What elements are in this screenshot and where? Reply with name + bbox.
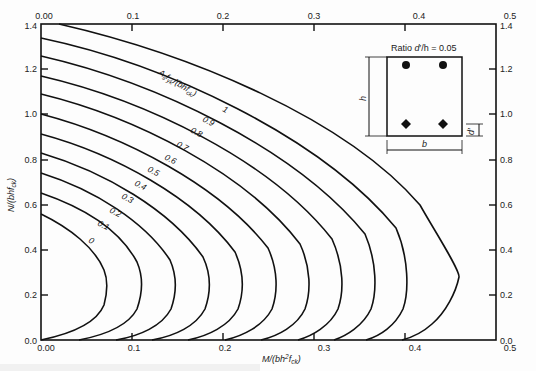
svg-text:1: 1	[221, 104, 230, 115]
svg-text:0: 0	[87, 235, 96, 246]
inset-title: Ratio d′/h = 0.05	[391, 43, 457, 53]
x-tick-label-top: 0.1	[127, 11, 140, 21]
y-axis-title: N/(bhfck)	[6, 178, 17, 212]
top-rebar	[439, 61, 447, 69]
y-tick-label-right: 0.0	[500, 336, 513, 346]
section-inset: Ratio d′/h = 0.05 h b d′	[358, 43, 483, 154]
inset-b-label: b	[422, 139, 427, 149]
y-tick-label: 0.2	[24, 290, 37, 300]
x-tick-label-top: 0.00	[35, 11, 53, 21]
plot-frame	[41, 24, 496, 340]
x-tick-label-top: 0.3	[308, 11, 321, 21]
curve-0.4	[41, 134, 242, 340]
x-tick-label: 0.4	[409, 343, 422, 353]
x-tick-label: 0.1	[128, 343, 141, 353]
x-axis-bottom: 0.00 0.1 0.2 0.3 0.4 0.5	[37, 333, 516, 353]
x-tick-label: 0.2	[219, 343, 232, 353]
svg-text:0.5: 0.5	[146, 164, 161, 179]
curve-1	[59, 24, 459, 340]
y-tick-label-right: 1.2	[500, 64, 513, 74]
y-tick-label-right: 0.2	[500, 290, 513, 300]
y-tick-label: 1.0	[24, 109, 37, 119]
interaction-diagram: 0.00 0.1 0.2 0.3 0.4 0.5 0.00 0.1 0.2 0.…	[0, 0, 536, 371]
y-axis-left: 0.0 0.2 0.4 0.6 0.8 1.0 1.2 1.4	[24, 21, 48, 346]
y-tick-label-right: 1.4	[500, 21, 513, 31]
caption-cutoff	[0, 364, 260, 371]
section-rectangle	[387, 57, 462, 136]
inset-d-label: d′	[466, 128, 476, 135]
bottom-rebar	[401, 119, 411, 129]
y-tick-label-right: 0.6	[500, 200, 513, 210]
y-tick-label-right: 0.8	[500, 155, 513, 165]
y-axis-right: 0.0 0.2 0.4 0.6 0.8 1.0 1.2 1.4	[489, 21, 513, 346]
x-tick-label-top: 0.2	[217, 11, 230, 21]
y-tick-label: 0.4	[24, 245, 37, 255]
y-tick-label-right: 1.0	[500, 109, 513, 119]
y-tick-label: 0.8	[24, 155, 37, 165]
svg-text:0.9: 0.9	[201, 114, 216, 129]
curve-0	[41, 214, 107, 340]
svg-text:0.4: 0.4	[133, 178, 148, 193]
x-axis-title: M/(bh2fck)	[262, 353, 301, 365]
y-tick-label-right: 0.4	[500, 245, 513, 255]
curve-0.3	[41, 153, 209, 340]
x-tick-label-top: 0.4	[413, 11, 426, 21]
curve-0.5	[41, 114, 276, 340]
x-axis-top: 0.00 0.1 0.2 0.3 0.4 0.5	[35, 11, 516, 31]
bottom-rebar	[438, 119, 448, 129]
curve-0.9	[41, 38, 407, 340]
interaction-curves	[41, 24, 459, 340]
inset-h-label: h	[358, 96, 368, 101]
y-tick-label: 0.6	[24, 200, 37, 210]
svg-text:0.7: 0.7	[175, 139, 190, 154]
svg-text:0.3: 0.3	[120, 191, 135, 206]
top-rebar	[402, 61, 410, 69]
x-tick-label: 0.00	[37, 343, 55, 353]
svg-text:0.2: 0.2	[108, 205, 123, 220]
x-tick-label: 0.3	[318, 343, 331, 353]
x-tick-label-top: 0.5	[504, 11, 517, 21]
y-tick-label: 1.4	[24, 21, 37, 31]
curve-0.2	[41, 173, 175, 340]
curve-0.6	[41, 94, 309, 340]
y-tick-label: 1.2	[24, 64, 37, 74]
y-tick-label: 0.0	[24, 336, 37, 346]
